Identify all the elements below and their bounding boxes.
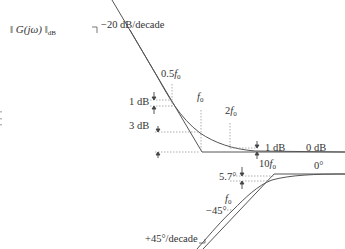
phase-minus-45deg: −45° <box>206 206 227 217</box>
phase-deviation-arrows <box>240 167 244 189</box>
slope-triangle-icon <box>92 27 97 33</box>
magnitude-axis-label-main: ‖ G(jω) ‖ <box>10 23 48 35</box>
phase-f0-sub: 0 <box>228 198 232 206</box>
deviation-1db-half-f0: 1 dB <box>129 97 149 108</box>
f0-sub: 0 <box>200 96 204 104</box>
bode-diagram-canvas <box>0 0 345 249</box>
phase-slope-label: +45°/decade <box>145 234 198 245</box>
half-f0-label: 0.5f0 <box>161 69 181 81</box>
high-freq-0deg-label: 0° <box>314 161 323 172</box>
ten-f0-coef: 10 <box>259 158 270 169</box>
magnitude-slope-label: −20 dB/decade <box>101 20 164 31</box>
left-edge-ticks <box>0 111 2 126</box>
deviation-5-7deg: 5.7° <box>219 172 236 183</box>
deviation-1db-2f0: 1 dB <box>265 143 285 154</box>
high-freq-0db-label: 0 dB <box>306 143 326 154</box>
magnitude-axis-label-sub: dB <box>48 29 56 37</box>
ten-f0-sub: 0 <box>272 163 276 171</box>
deviation-arrows <box>152 92 259 159</box>
two-f0-label: 2f0 <box>225 106 237 118</box>
magnitude-deviation-guides <box>150 100 258 152</box>
magnitude-curve <box>130 30 345 152</box>
two-f0-sub: 0 <box>233 110 237 118</box>
f0-label: f0 <box>197 92 203 104</box>
magnitude-axis-label: ‖ G(jω) ‖dB <box>10 24 56 37</box>
half-f0-coef: 0.5 <box>161 68 174 79</box>
ten-f0-label: 10f0 <box>259 159 276 171</box>
half-f0-sub: 0 <box>177 73 181 81</box>
deviation-3db-f0: 3 dB <box>129 121 149 132</box>
